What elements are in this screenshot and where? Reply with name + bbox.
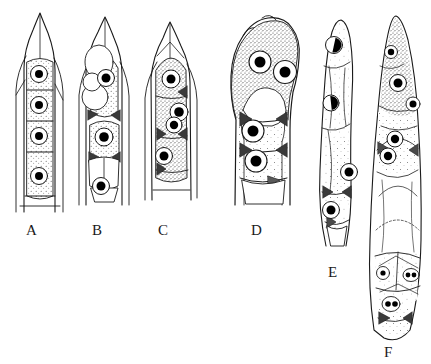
panel-label-b: B [92, 222, 103, 239]
specimen-d-drawing [231, 15, 300, 205]
panel-label-f: F [384, 344, 393, 361]
specimen-c-drawing [145, 22, 197, 200]
illustration-canvas [0, 0, 431, 364]
specimen-f-drawing [370, 16, 422, 340]
panel-label-c: C [158, 222, 169, 239]
specimen-e-drawing [320, 20, 358, 246]
specimen-b-drawing [79, 17, 129, 205]
specimen-a-drawing [16, 13, 63, 212]
panel-label-e: E [328, 264, 338, 281]
figure-plate: A B C D E F [0, 0, 431, 364]
panel-label-a: A [26, 222, 37, 239]
panel-label-d: D [251, 222, 262, 239]
